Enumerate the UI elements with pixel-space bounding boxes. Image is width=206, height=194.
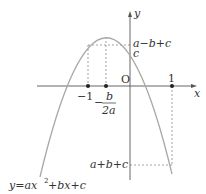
origin-label: O <box>121 73 130 86</box>
parabola-diagram: y x O −1 1 − b 2a a−b+c c a+b+c y=ax 2 +… <box>0 0 206 194</box>
vertex-numerator: b <box>106 90 113 103</box>
point-x-minus-1 <box>86 84 90 88</box>
equation-suffix: +bx+c <box>48 179 86 192</box>
curve-equation: y=ax 2 +bx+c <box>8 177 86 192</box>
tick-label-1: 1 <box>168 72 175 85</box>
y-axis-label: y <box>133 7 141 20</box>
equation-prefix: y=ax <box>8 179 38 192</box>
vertex-x-label: − b 2a <box>94 90 116 117</box>
y-axis-arrow-icon <box>128 11 132 17</box>
label-a-plus-b-plus-c: a+b+c <box>90 158 128 171</box>
vertex-denominator: 2a <box>101 104 116 117</box>
x-axis-label: x <box>194 87 201 100</box>
label-c: c <box>133 47 139 60</box>
tick-label-minus-1: −1 <box>77 90 93 103</box>
point-vertex-x <box>104 84 108 88</box>
